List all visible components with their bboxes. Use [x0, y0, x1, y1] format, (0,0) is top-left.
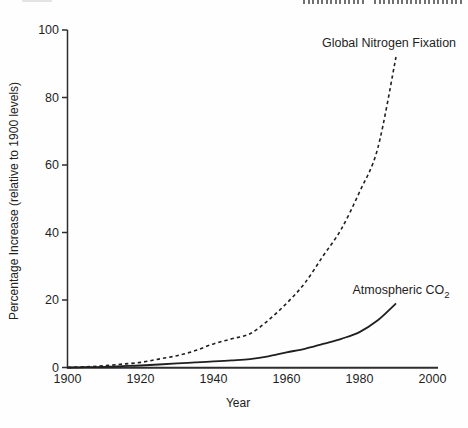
figure-page: 020406080100190019201940196019802000 Per…	[0, 0, 468, 428]
chart-canvas	[0, 0, 468, 428]
x-tick-label: 1980	[346, 372, 374, 386]
y-tick-label: 80	[28, 91, 59, 105]
y-axis-title: Percentage Increase (relative to 1900 le…	[7, 82, 21, 320]
x-axis-title: Year	[226, 396, 250, 410]
y-tick-label: 20	[28, 293, 59, 307]
x-tick-label: 1900	[54, 372, 82, 386]
series-curve-co2	[68, 303, 397, 367]
series-curve-nitrogen	[68, 57, 397, 368]
x-tick-label: 1940	[200, 372, 228, 386]
y-axis-ticks	[62, 30, 68, 368]
series-label-co2-main: Atmospheric CO	[353, 283, 445, 297]
y-tick-label: 60	[28, 158, 59, 172]
series-label-nitrogen: Global Nitrogen Fixation	[322, 36, 456, 50]
y-tick-label: 100	[28, 23, 59, 37]
series-label-co2-subscript: 2	[444, 289, 449, 300]
x-tick-label: 1960	[273, 372, 301, 386]
series-label-co2: Atmospheric CO2	[353, 283, 450, 297]
x-tick-label: 2000	[419, 372, 447, 386]
x-tick-label: 1920	[127, 372, 155, 386]
y-tick-label: 40	[28, 226, 59, 240]
